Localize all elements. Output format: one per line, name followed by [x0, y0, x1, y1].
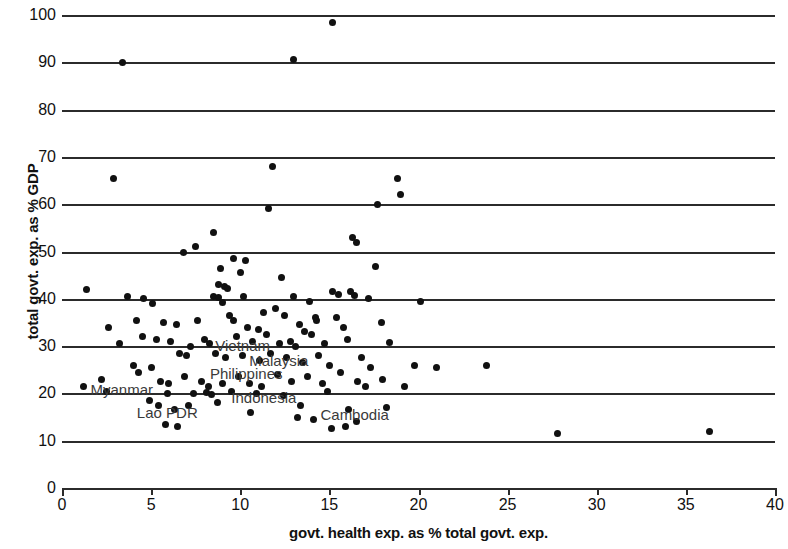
data-point: [198, 378, 205, 385]
data-point: [183, 352, 190, 359]
data-point: [187, 343, 194, 350]
data-point: [160, 319, 167, 326]
x-axis-end-cap: [775, 488, 777, 496]
data-point: [265, 205, 272, 212]
data-point: [278, 274, 285, 281]
data-point: [281, 312, 288, 319]
data-point: [296, 321, 303, 328]
data-point: [139, 333, 146, 340]
data-point: [272, 305, 279, 312]
data-point: [173, 321, 180, 328]
gridline: [62, 62, 775, 64]
data-point: [340, 324, 347, 331]
data-point: [244, 324, 251, 331]
point-annotation-label: Indonesia: [231, 390, 296, 405]
point-annotation-label: Myanmar: [91, 382, 154, 397]
data-point: [210, 229, 217, 236]
data-point: [372, 263, 379, 270]
x-axis-tick-mark: [597, 488, 599, 495]
data-point: [165, 380, 172, 387]
data-point: [247, 409, 254, 416]
x-axis-tick-mark: [240, 488, 242, 495]
data-point: [335, 291, 342, 298]
data-point: [328, 425, 335, 432]
data-point: [365, 295, 372, 302]
y-axis-tick-label: 30: [12, 338, 56, 354]
y-axis-tick-label: 50: [12, 244, 56, 260]
data-point: [378, 319, 385, 326]
data-point: [133, 317, 140, 324]
data-point: [255, 326, 262, 333]
x-axis-tick-mark: [686, 488, 688, 495]
gridline: [62, 15, 775, 17]
data-point: [176, 350, 183, 357]
data-point: [83, 286, 90, 293]
data-point: [362, 383, 369, 390]
data-point: [351, 292, 358, 299]
point-annotation-label: Philippines: [210, 366, 283, 381]
data-point: [308, 331, 315, 338]
data-point: [353, 239, 360, 246]
data-point: [397, 191, 404, 198]
data-point: [162, 421, 169, 428]
data-point: [354, 378, 361, 385]
data-point: [321, 340, 328, 347]
data-point: [304, 373, 311, 380]
data-point: [190, 390, 197, 397]
x-axis-tick-mark: [508, 488, 510, 495]
point-annotation-label: Vietnam: [215, 338, 270, 353]
x-axis-title: govt. health exp. as % total govt. exp.: [62, 524, 775, 541]
data-point: [180, 249, 187, 256]
data-point: [483, 362, 490, 369]
data-point: [105, 324, 112, 331]
data-point: [146, 397, 153, 404]
x-axis-tick-label: 40: [750, 497, 788, 513]
data-point: [167, 338, 174, 345]
data-point: [192, 243, 199, 250]
x-axis-tick-mark: [419, 488, 421, 495]
x-axis-tick-label: 35: [661, 497, 711, 513]
data-point: [342, 423, 349, 430]
point-annotation-label: Cambodia: [320, 407, 388, 422]
x-axis-tick-label: 25: [483, 497, 533, 513]
data-point: [153, 336, 160, 343]
data-point: [554, 430, 561, 437]
data-point: [208, 391, 215, 398]
data-point: [706, 428, 713, 435]
data-point: [401, 383, 408, 390]
x-axis-tick-label: 30: [572, 497, 622, 513]
data-point: [329, 19, 336, 26]
data-point: [319, 380, 326, 387]
x-axis-tick-label: 10: [215, 497, 265, 513]
plot-area: VietnamMalaysiaPhilippinesMyanmarIndones…: [62, 15, 775, 488]
data-point: [148, 364, 155, 371]
data-point: [214, 399, 221, 406]
data-point: [230, 255, 237, 262]
x-axis-tick-label: 5: [126, 497, 176, 513]
data-point: [297, 402, 304, 409]
data-point: [337, 369, 344, 376]
y-axis-tick-label: 90: [12, 54, 56, 70]
y-axis-tick-label: 20: [12, 385, 56, 401]
gridline: [62, 157, 775, 159]
data-point: [135, 369, 142, 376]
x-axis-tick-label: 0: [37, 497, 87, 513]
data-point: [417, 298, 424, 305]
data-point: [374, 201, 381, 208]
data-point: [164, 390, 171, 397]
data-point: [324, 388, 331, 395]
data-point: [217, 265, 224, 272]
data-point: [310, 416, 317, 423]
data-point: [181, 373, 188, 380]
data-point: [333, 314, 340, 321]
data-point: [157, 378, 164, 385]
x-axis-tick-mark: [151, 488, 153, 495]
data-point: [230, 317, 237, 324]
data-point: [237, 269, 244, 276]
gridline: [62, 204, 775, 206]
data-point: [222, 354, 229, 361]
data-point: [149, 300, 156, 307]
data-point: [386, 339, 393, 346]
data-point: [301, 328, 308, 335]
